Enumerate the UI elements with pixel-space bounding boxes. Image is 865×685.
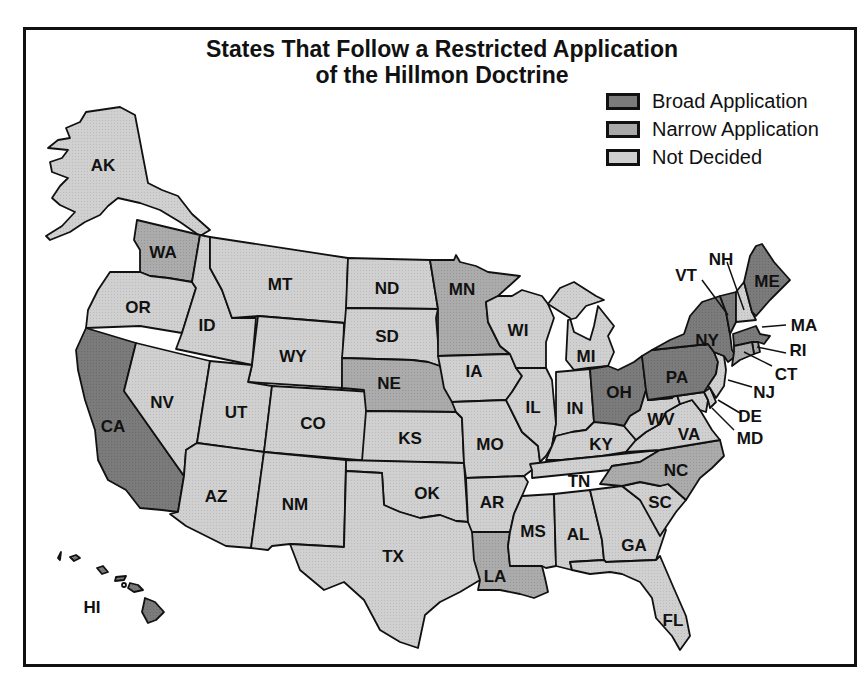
legend-swatch-broad	[606, 93, 640, 110]
legend-label-broad: Broad Application	[652, 90, 808, 113]
title-line-2: of the Hillmon Doctrine	[26, 62, 858, 88]
map-frame: States That Follow a Restricted Applicat…	[23, 27, 857, 667]
title-line-1: States That Follow a Restricted Applicat…	[26, 36, 858, 62]
legend-item-not-decided: Not Decided	[606, 143, 819, 171]
legend-swatch-narrow	[606, 121, 640, 138]
map-title: States That Follow a Restricted Applicat…	[26, 36, 858, 88]
legend: Broad Application Narrow Application Not…	[606, 87, 819, 171]
legend-swatch-not-decided	[606, 149, 640, 166]
legend-item-broad: Broad Application	[606, 87, 819, 115]
legend-item-narrow: Narrow Application	[606, 115, 819, 143]
legend-label-not-decided: Not Decided	[652, 146, 762, 169]
legend-label-narrow: Narrow Application	[652, 118, 819, 141]
